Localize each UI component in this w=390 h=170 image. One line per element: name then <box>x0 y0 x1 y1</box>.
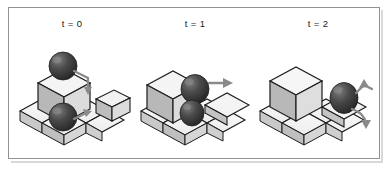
panel-timestep-0: t = 0 <box>10 7 134 159</box>
arrow-right <box>209 78 233 88</box>
sphere-bottom <box>49 103 77 131</box>
panel-timestep-1: t = 1 <box>133 7 257 159</box>
panel-label-t2: t = 2 <box>256 18 380 29</box>
sphere-top <box>49 52 77 80</box>
sphere-upper <box>181 75 209 104</box>
sphere-lower <box>180 100 204 126</box>
scene-timestep-1 <box>133 33 257 155</box>
scene-timestep-2 <box>256 33 380 155</box>
arrow-up-hook <box>356 79 372 93</box>
frame-shadow-bottom <box>11 161 383 163</box>
frame-shadow-right <box>381 10 383 162</box>
figure-root: t = 0 <box>0 0 390 170</box>
scene-timestep-0 <box>10 33 134 155</box>
panel-label-t0: t = 0 <box>10 18 134 29</box>
panel-label-t1: t = 1 <box>133 18 257 29</box>
panel-timestep-2: t = 2 <box>256 7 380 159</box>
